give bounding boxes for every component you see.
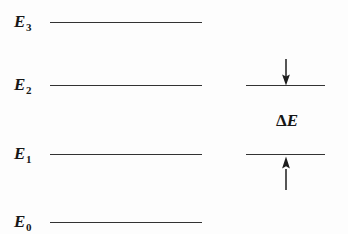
level-line-e3 — [50, 22, 202, 23]
level-symbol-e0: E — [14, 212, 26, 231]
level-subscript-e1: 1 — [26, 153, 32, 165]
energy-level-diagram: E3 E2 ΔE E1 E0 — [0, 0, 348, 234]
level-line-e0 — [50, 222, 202, 223]
level-line-e2 — [50, 85, 202, 86]
level-label-e2: E2 — [14, 76, 32, 96]
level-symbol-e1: E — [14, 144, 26, 163]
delta-e-symbol: E — [287, 111, 298, 130]
delta-e-label: ΔE — [276, 112, 298, 129]
level-subscript-e2: 2 — [26, 84, 32, 96]
level-subscript-e0: 0 — [26, 221, 32, 233]
emission-down-arrow-icon — [278, 58, 294, 88]
level-line-e1 — [50, 154, 202, 155]
absorption-up-arrow-icon — [278, 155, 294, 191]
level-label-e3: E3 — [14, 13, 32, 33]
level-label-e1: E1 — [14, 145, 32, 165]
level-symbol-e2: E — [14, 75, 26, 94]
level-subscript-e3: 3 — [26, 21, 32, 33]
delta-symbol: Δ — [276, 111, 287, 130]
level-symbol-e3: E — [14, 12, 26, 31]
level-label-e0: E0 — [14, 213, 32, 233]
